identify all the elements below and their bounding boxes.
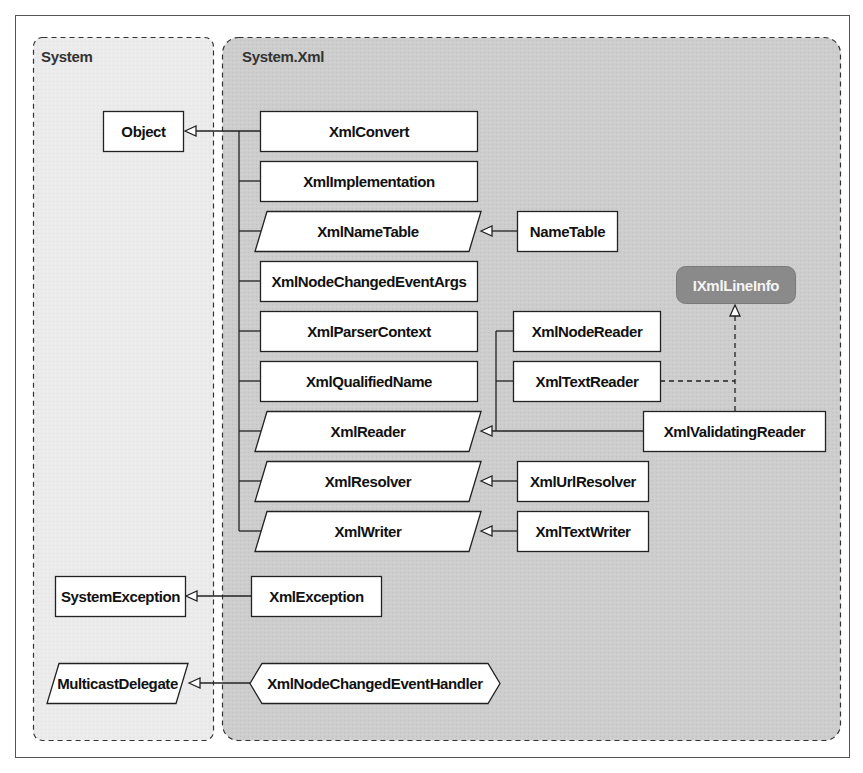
class-hierarchy-diagram: System System.Xml [0, 0, 863, 773]
svg-text:Object: Object [121, 123, 166, 140]
package-system-label: System [41, 48, 93, 65]
type-xml-implementation[interactable]: XmlImplementation [261, 162, 478, 202]
type-name-table[interactable]: NameTable [518, 212, 618, 252]
svg-text:IXmlLineInfo: IXmlLineInfo [693, 277, 780, 294]
type-xml-parser-context[interactable]: XmlParserContext [261, 312, 478, 352]
type-xml-writer[interactable]: XmlWriter [255, 512, 481, 552]
svg-text:XmlQualifiedName: XmlQualifiedName [306, 373, 432, 390]
package-system-xml-label: System.Xml [242, 48, 324, 65]
svg-text:XmlException: XmlException [269, 588, 364, 605]
type-xml-name-table[interactable]: XmlNameTable [255, 212, 481, 252]
type-object[interactable]: Object [104, 112, 184, 152]
svg-text:XmlImplementation: XmlImplementation [303, 173, 435, 190]
type-xml-text-writer[interactable]: XmlTextWriter [518, 512, 649, 552]
type-xml-node-changed-event-handler[interactable]: XmlNodeChangedEventHandler [250, 664, 500, 704]
type-system-exception[interactable]: SystemException [56, 577, 186, 617]
svg-text:XmlNodeReader: XmlNodeReader [532, 323, 643, 340]
type-xml-node-reader[interactable]: XmlNodeReader [514, 312, 661, 352]
svg-text:XmlTextReader: XmlTextReader [536, 373, 639, 390]
type-xml-node-changed-event-args[interactable]: XmlNodeChangedEventArgs [261, 262, 478, 302]
svg-text:XmlTextWriter: XmlTextWriter [535, 523, 631, 540]
svg-text:XmlNodeChangedEventArgs: XmlNodeChangedEventArgs [272, 273, 467, 290]
svg-text:XmlNameTable: XmlNameTable [317, 223, 419, 240]
svg-text:XmlNodeChangedEventHandler: XmlNodeChangedEventHandler [267, 675, 483, 692]
svg-text:XmlConvert: XmlConvert [329, 123, 410, 140]
type-xml-reader[interactable]: XmlReader [255, 412, 481, 452]
type-ixml-line-info[interactable]: IXmlLineInfo [677, 267, 796, 304]
svg-text:XmlParserContext: XmlParserContext [307, 323, 431, 340]
svg-text:NameTable: NameTable [530, 223, 605, 240]
svg-text:XmlResolver: XmlResolver [325, 473, 412, 490]
svg-text:XmlReader: XmlReader [331, 423, 406, 440]
type-xml-convert[interactable]: XmlConvert [261, 112, 478, 152]
type-multicast-delegate[interactable]: MulticastDelegate [47, 664, 188, 704]
type-xml-resolver[interactable]: XmlResolver [255, 462, 481, 502]
svg-text:XmlValidatingReader: XmlValidatingReader [664, 423, 806, 440]
svg-text:XmlUrlResolver: XmlUrlResolver [530, 473, 637, 490]
svg-text:XmlWriter: XmlWriter [335, 523, 403, 540]
svg-text:MulticastDelegate: MulticastDelegate [57, 675, 178, 692]
svg-text:SystemException: SystemException [61, 588, 180, 605]
type-xml-text-reader[interactable]: XmlTextReader [514, 362, 661, 402]
type-xml-validating-reader[interactable]: XmlValidatingReader [644, 412, 826, 452]
type-xml-url-resolver[interactable]: XmlUrlResolver [518, 462, 649, 502]
type-xml-exception[interactable]: XmlException [252, 577, 382, 617]
type-xml-qualified-name[interactable]: XmlQualifiedName [261, 362, 478, 402]
